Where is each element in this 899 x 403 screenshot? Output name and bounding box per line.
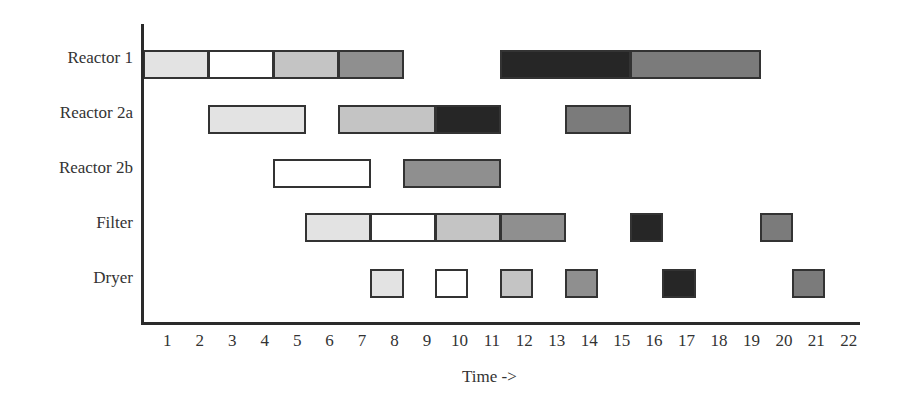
x-tick-label: 20	[769, 331, 799, 351]
gantt-chart: Reactor 1 Reactor 2a Reactor 2b Filter D…	[0, 0, 899, 403]
x-tick-label: 17	[672, 331, 702, 351]
task-bar	[500, 213, 566, 242]
x-tick-label: 7	[347, 331, 377, 351]
task-bar	[370, 269, 403, 298]
task-bar	[143, 50, 209, 79]
x-axis-line	[141, 322, 860, 325]
y-axis-line	[141, 24, 144, 325]
row-label-filter: Filter	[96, 213, 133, 233]
x-tick-label: 18	[704, 331, 734, 351]
task-bar	[500, 269, 533, 298]
task-bar	[208, 105, 306, 134]
x-tick-label: 9	[412, 331, 442, 351]
task-bar	[273, 50, 339, 79]
x-tick-label: 8	[379, 331, 409, 351]
x-axis-title: Time ->	[462, 367, 517, 387]
row-label-reactor-2a: Reactor 2a	[60, 103, 133, 123]
task-bar	[435, 105, 501, 134]
task-bar	[208, 50, 274, 79]
row-label-dryer: Dryer	[93, 268, 133, 288]
task-bar	[792, 269, 825, 298]
task-bar	[662, 269, 695, 298]
x-tick-label: 10	[444, 331, 474, 351]
task-bar	[630, 50, 761, 79]
x-tick-label: 5	[282, 331, 312, 351]
task-bar	[370, 213, 436, 242]
task-bar	[500, 50, 631, 79]
x-tick-label: 2	[185, 331, 215, 351]
task-bar	[630, 213, 663, 242]
task-bar	[338, 105, 436, 134]
x-tick-label: 22	[834, 331, 864, 351]
x-tick-label: 12	[509, 331, 539, 351]
task-bar	[435, 269, 468, 298]
task-bar	[305, 213, 371, 242]
x-tick-label: 16	[639, 331, 669, 351]
task-bar	[760, 213, 793, 242]
x-tick-label: 11	[477, 331, 507, 351]
task-bar	[403, 159, 501, 188]
x-tick-label: 13	[542, 331, 572, 351]
row-label-reactor-1: Reactor 1	[67, 48, 133, 68]
task-bar	[565, 105, 631, 134]
x-tick-label: 19	[736, 331, 766, 351]
x-tick-label: 14	[574, 331, 604, 351]
x-tick-label: 3	[217, 331, 247, 351]
task-bar	[565, 269, 598, 298]
x-tick-label: 6	[315, 331, 345, 351]
task-bar	[435, 213, 501, 242]
task-bar	[273, 159, 371, 188]
x-tick-label: 21	[801, 331, 831, 351]
row-label-reactor-2b: Reactor 2b	[59, 158, 133, 178]
x-tick-label: 15	[607, 331, 637, 351]
x-tick-label: 4	[250, 331, 280, 351]
task-bar	[338, 50, 404, 79]
x-tick-label: 1	[152, 331, 182, 351]
